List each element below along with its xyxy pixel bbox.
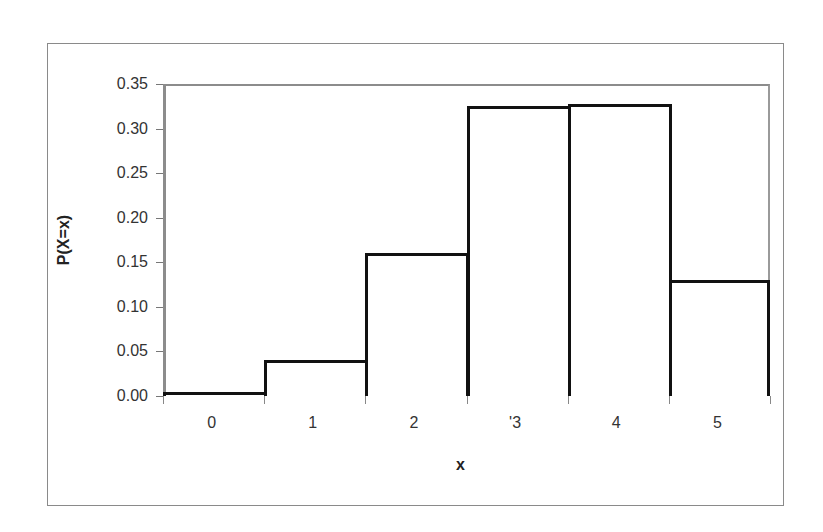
y-tick-label: 0.10 [88,298,148,316]
y-tick-label: 0.30 [88,120,148,138]
y-tick-label: 0.05 [88,342,148,360]
y-tick [156,129,163,130]
x-tick-label: 1 [293,414,333,432]
x-tick-label: 2 [394,414,434,432]
bar-x-2 [365,253,469,396]
y-axis-title: P(X=x) [55,215,73,265]
x-tick-label: '3 [495,414,535,432]
bar-x-4 [568,104,672,396]
x-tick [264,396,265,404]
x-tick [163,396,164,404]
y-tick [156,262,163,263]
y-tick-label: 0.15 [88,253,148,271]
bar-x-0 [163,392,267,396]
y-tick [156,84,163,85]
x-tick [568,396,569,404]
x-tick [467,396,468,404]
y-tick-label: 0.00 [88,387,148,405]
y-tick [156,396,163,397]
bars-container [163,84,770,396]
x-tick-label: 4 [596,414,636,432]
x-tick [770,396,771,404]
bar-x-1 [264,360,368,396]
x-axis-title: x [456,456,465,474]
x-tick-label: 0 [192,414,232,432]
y-tick-label: 0.35 [88,75,148,93]
x-tick [365,396,366,404]
y-tick [156,218,163,219]
x-tick-label: 5 [697,414,737,432]
y-tick [156,351,163,352]
y-tick-label: 0.20 [88,209,148,227]
y-tick [156,307,163,308]
bar-x-3 [467,106,571,396]
bar-x-5 [669,280,770,396]
y-tick-label: 0.25 [88,164,148,182]
y-tick [156,173,163,174]
x-tick [669,396,670,404]
